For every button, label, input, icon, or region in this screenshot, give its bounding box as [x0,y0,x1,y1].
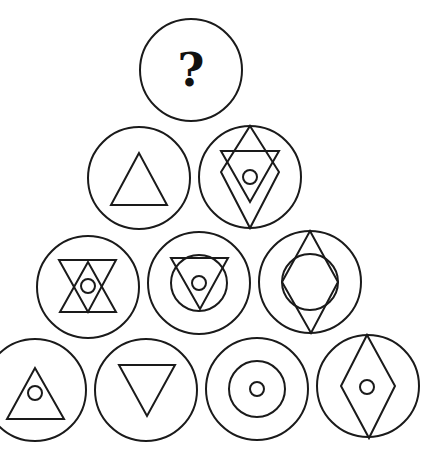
puzzle-cell-c8 [95,339,197,441]
inner-circle-icon [229,361,285,417]
puzzle-cell-c6 [259,231,361,333]
puzzle-row-3 [37,231,361,338]
upright-triangle-icon [111,153,167,205]
puzzle-cell-c3 [199,126,301,228]
inverted-triangle-icon [59,260,116,312]
puzzle-row-1: ? [140,19,242,121]
small-circle-icon [250,382,264,396]
puzzle-cell-c5 [148,232,250,334]
inner-circle-icon [282,254,338,310]
upright-triangle-icon [7,368,64,419]
puzzle-row-2 [88,126,301,229]
outer-circle-icon [88,127,190,229]
small-circle-icon [243,170,257,184]
outer-circle-icon [0,339,86,441]
outer-circle-icon [199,126,301,228]
puzzle-cell-c2 [88,127,190,229]
inverted-triangle-icon [119,365,175,416]
outer-circle-icon [206,338,308,440]
diamond-icon [282,231,338,333]
diamond-icon [221,126,279,228]
upright-triangle-icon [60,262,116,312]
puzzle-cell-c1: ? [140,19,242,121]
pyramid-puzzle: ? [0,0,438,461]
small-circle-icon [360,380,374,394]
puzzle-cell-c9 [206,338,308,440]
puzzle-cell-c7 [0,339,86,441]
question-mark: ? [178,43,205,97]
outer-circle-icon [95,339,197,441]
outer-circle-icon [259,231,361,333]
small-circle-icon [28,386,42,400]
inner-circle-icon [171,255,227,311]
puzzle-cell-c4 [37,236,139,338]
outer-circle-icon [37,236,139,338]
puzzle-cell-c10 [317,335,419,438]
small-circle-icon [81,279,95,293]
outer-circle-icon [148,232,250,334]
puzzle-row-4 [0,335,419,441]
diamond-icon [341,335,395,438]
small-circle-icon [192,276,206,290]
outer-circle-icon [317,335,419,437]
